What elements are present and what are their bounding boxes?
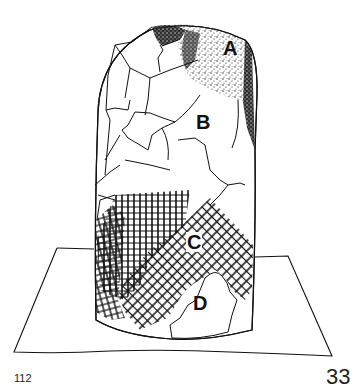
cylinder-diagram bbox=[0, 0, 358, 389]
label-a: A bbox=[223, 38, 237, 58]
label-d: D bbox=[193, 293, 207, 313]
page-number-right: 33 bbox=[326, 364, 350, 389]
label-c: C bbox=[186, 232, 202, 252]
page-number-left: 112 bbox=[14, 372, 32, 384]
label-b: B bbox=[196, 112, 210, 132]
